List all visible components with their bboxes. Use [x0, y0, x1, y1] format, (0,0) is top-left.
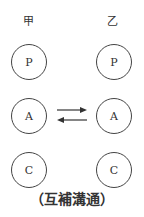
caption: （互補溝通）	[0, 188, 144, 208]
arrows	[0, 0, 144, 217]
arrow-left-icon	[57, 117, 87, 123]
arrow-right-icon	[57, 107, 87, 113]
